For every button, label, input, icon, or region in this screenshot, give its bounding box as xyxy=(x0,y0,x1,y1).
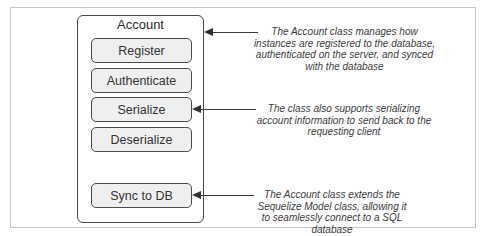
arrow-head-left-icon xyxy=(204,28,213,36)
method-register: Register xyxy=(91,38,192,63)
method-authenticate: Authenticate xyxy=(91,68,192,93)
annotation-serialize: The class also supports serializing acco… xyxy=(254,103,434,138)
annotation-sync: The Account class extends the Sequelize … xyxy=(254,189,410,235)
arrow-head-left-icon xyxy=(192,105,201,113)
annotation-account: The Account class manages how instances … xyxy=(252,26,437,72)
arrow-head-left-icon xyxy=(192,191,201,199)
method-deserialize: Deserialize xyxy=(91,127,192,152)
arrow-sync xyxy=(200,195,254,197)
method-sync-to-db: Sync to DB xyxy=(91,183,192,208)
method-serialize: Serialize xyxy=(91,97,192,122)
class-title: Account xyxy=(77,17,204,32)
arrow-serialize xyxy=(200,109,256,111)
